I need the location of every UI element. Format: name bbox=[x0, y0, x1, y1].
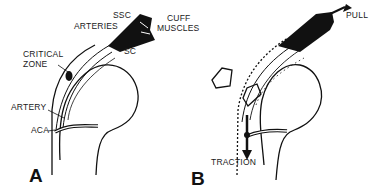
label-aca: ACA bbox=[31, 126, 49, 135]
label-ssc: SSC bbox=[113, 11, 131, 20]
label-artery: ARTERY bbox=[11, 103, 46, 112]
label-critical: CRITICAL bbox=[23, 50, 63, 59]
label-zone: ZONE bbox=[23, 60, 47, 69]
compression-arrow-left bbox=[212, 68, 232, 88]
critical-zone-marker bbox=[66, 71, 73, 81]
label-cuff: CUFF bbox=[167, 14, 190, 23]
panel-a-drawing bbox=[48, 45, 138, 175]
pull-arrow bbox=[330, 7, 345, 14]
label-pull: PULL bbox=[346, 11, 368, 20]
panel-letter-b: B bbox=[191, 168, 205, 190]
label-sc: SC bbox=[124, 47, 136, 56]
tendon-band-a bbox=[56, 45, 110, 130]
panel-letter-a: A bbox=[29, 165, 43, 187]
humeral-head-b bbox=[260, 65, 321, 180]
humerus-shaft-a bbox=[52, 45, 95, 175]
label-traction: TRACTION bbox=[211, 158, 256, 167]
cuff-muscles-b bbox=[278, 12, 334, 52]
label-arteries: ARTERIES bbox=[74, 22, 118, 31]
label-muscles: MUSCLES bbox=[157, 24, 200, 33]
